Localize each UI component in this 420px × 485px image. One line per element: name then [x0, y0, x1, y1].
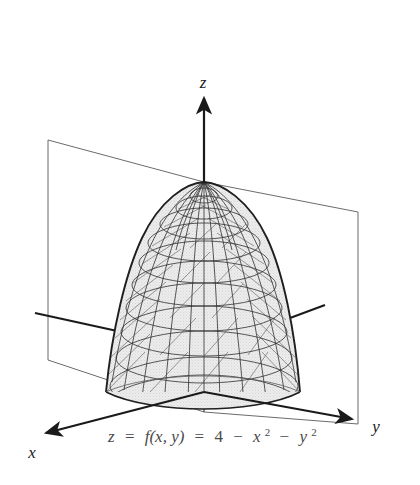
equation-minus-1: − [233, 427, 243, 446]
equation-lhs: z [107, 427, 115, 446]
equation-x-base: x [252, 427, 261, 446]
equation-y-base: y [297, 427, 307, 446]
paraboloid-figure: z x y z = f(x, y) = 4 − x 2 − y 2 [0, 0, 420, 485]
z-axis-label: z [199, 73, 207, 92]
equation-eq1: = [125, 427, 135, 446]
equation-constant: 4 [214, 427, 223, 446]
equation-y-exponent: 2 [311, 426, 317, 438]
equation-x-exponent: 2 [265, 426, 271, 438]
equation-eq2: = [195, 427, 205, 446]
equation-function: f(x, y) [145, 427, 185, 446]
y-axis-label: y [370, 417, 380, 436]
equation-minus-2: − [280, 427, 290, 446]
x-axis-label: x [27, 443, 36, 462]
